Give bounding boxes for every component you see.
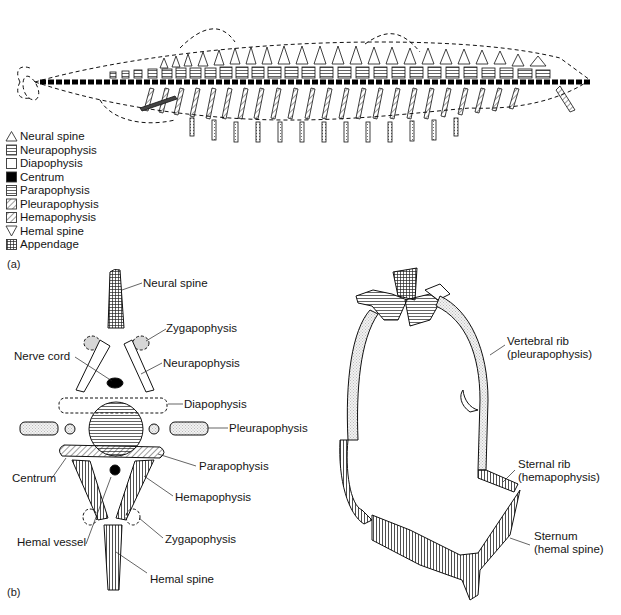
label-vertebral-rib-sub: (pleurapophysis) <box>507 348 592 361</box>
label-neurapophysis: Neurapophysis <box>163 357 240 370</box>
label-hemapophysis: Hemapophysis <box>175 491 251 504</box>
label-hemal-spine: Hemal spine <box>150 573 214 586</box>
panel-a-tag: (a) <box>7 258 20 270</box>
label-diapophysis: Diapophysis <box>184 398 247 411</box>
label-zygapophysis-top: Zygapophysis <box>166 322 237 335</box>
label-sternum: Sternum <box>534 530 577 543</box>
label-sternal-rib-sub: (hemapophysis) <box>518 471 600 484</box>
legend-appendage: Appendage <box>20 238 79 251</box>
label-pleurapophysis: Pleurapophysis <box>229 422 308 435</box>
label-sternal-rib: Sternal rib <box>518 458 570 471</box>
legend-centrum: Centrum <box>20 171 64 184</box>
label-zygapophysis-bottom: Zygapophysis <box>165 533 236 546</box>
panel-b-tag: (b) <box>7 586 20 598</box>
label-parapophysis: Parapophysis <box>199 460 269 473</box>
legend-neurapophysis: Neurapophysis <box>20 144 97 157</box>
legend-hemal-spine: Hemal spine <box>20 225 84 238</box>
legend-neural-spine: Neural spine <box>20 130 85 143</box>
label-nerve-cord: Nerve cord <box>14 350 70 363</box>
label-neural-spine: Neural spine <box>143 277 208 290</box>
label-sternum-sub: (hemal spine) <box>534 543 604 556</box>
fish-vertebrae <box>110 46 575 142</box>
figure-artwork <box>0 0 621 615</box>
legend-hemapophysis: Hemapophysis <box>20 211 96 224</box>
label-vertebral-rib: Vertebral rib <box>507 335 569 348</box>
legend-pleurapophysis: Pleurapophysis <box>20 198 99 211</box>
legend-parapophysis: Parapophysis <box>20 184 90 197</box>
label-centrum: Centrum <box>12 472 56 485</box>
ribcage-drawing <box>340 268 520 600</box>
legend-swatches <box>6 132 17 250</box>
label-hemal-vessel: Hemal vessel <box>17 536 86 549</box>
legend-diapophysis: Diapophysis <box>20 157 83 170</box>
